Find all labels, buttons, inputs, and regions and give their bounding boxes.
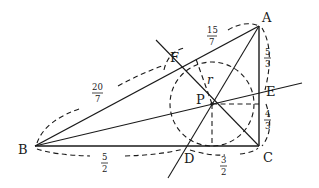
brace-BD-right bbox=[125, 149, 184, 156]
label-radius-r: r bbox=[207, 73, 214, 87]
brace-BF bbox=[37, 108, 82, 143]
label-E: E bbox=[266, 84, 276, 99]
line-BE bbox=[35, 83, 302, 146]
brace-BF-upper bbox=[118, 66, 162, 86]
fraction-BD: 5 2 bbox=[101, 152, 108, 174]
point-P-marker bbox=[210, 102, 214, 106]
svg-text:5: 5 bbox=[265, 47, 270, 57]
label-F: F bbox=[170, 50, 179, 65]
svg-text:15: 15 bbox=[207, 25, 218, 35]
fraction-BF: 20 7 bbox=[92, 82, 103, 104]
svg-text:2: 2 bbox=[221, 167, 226, 177]
svg-text:5: 5 bbox=[102, 152, 107, 162]
fraction-AF: 15 7 bbox=[207, 25, 218, 47]
fraction-EC: 4 3 bbox=[264, 109, 271, 131]
svg-text:2: 2 bbox=[102, 164, 107, 174]
svg-text:7: 7 bbox=[209, 37, 214, 47]
svg-text:20: 20 bbox=[92, 82, 103, 92]
brace-DC bbox=[190, 150, 225, 155]
svg-text:3: 3 bbox=[265, 121, 270, 131]
brace-BD bbox=[37, 149, 90, 156]
fraction-AE: 5 3 bbox=[264, 47, 271, 69]
side-AB bbox=[35, 26, 259, 146]
svg-text:3: 3 bbox=[265, 59, 270, 69]
geometry-diagram: A B C P D E F r 15 7 5 3 4 3 3 2 5 2 20 … bbox=[0, 0, 319, 188]
label-P: P bbox=[196, 92, 205, 107]
svg-text:4: 4 bbox=[265, 109, 270, 119]
fraction-DC: 3 2 bbox=[220, 155, 227, 177]
svg-text:3: 3 bbox=[221, 155, 226, 165]
brace-DC-right bbox=[240, 148, 258, 154]
label-B: B bbox=[18, 142, 28, 157]
svg-text:7: 7 bbox=[95, 94, 100, 104]
label-C: C bbox=[263, 150, 273, 165]
label-D: D bbox=[184, 151, 194, 166]
label-A: A bbox=[261, 10, 272, 25]
